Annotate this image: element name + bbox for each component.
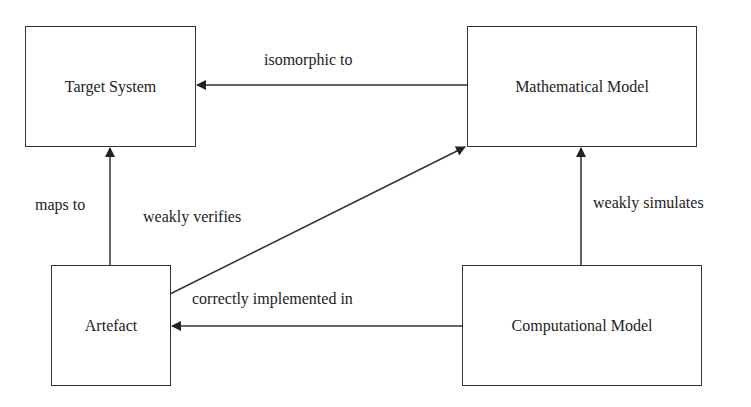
- node-label: Computational Model: [512, 317, 653, 335]
- label-correctly-implemented-in: correctly implemented in: [192, 290, 353, 308]
- node-label: Mathematical Model: [515, 78, 649, 96]
- node-artefact: Artefact: [51, 265, 171, 386]
- label-weakly-verifies: weakly verifies: [143, 208, 241, 226]
- node-computational-model: Computational Model: [462, 265, 702, 386]
- node-target-system: Target System: [25, 26, 196, 147]
- label-isomorphic-to: isomorphic to: [264, 51, 352, 69]
- node-mathematical-model: Mathematical Model: [467, 26, 697, 147]
- label-maps-to: maps to: [35, 196, 85, 214]
- label-weakly-simulates: weakly simulates: [593, 194, 704, 212]
- node-label: Target System: [65, 78, 156, 96]
- node-label: Artefact: [85, 317, 137, 335]
